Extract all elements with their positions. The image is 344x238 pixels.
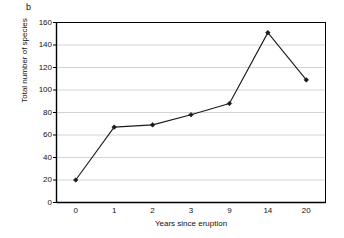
plot-area (0, 0, 344, 238)
gridlines (57, 23, 326, 181)
data-point-marker (227, 101, 232, 106)
data-point-marker (189, 112, 194, 117)
data-point-marker (150, 123, 155, 128)
figure-panel-b: b Total number of species Years since er… (0, 0, 344, 238)
data-markers (73, 30, 308, 182)
